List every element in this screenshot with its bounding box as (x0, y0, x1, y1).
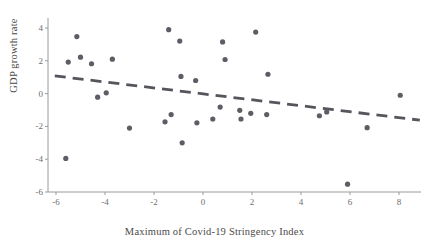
data-point (237, 108, 242, 113)
axis-lines (48, 18, 421, 192)
data-point (365, 125, 370, 130)
y-axis-title: GDP growth rate (8, 0, 19, 116)
data-point (178, 74, 183, 79)
y-tick-label: 0 (26, 89, 43, 99)
scatter-chart-figure: -6-4-202468 420-2-4-6 Maximum of Covid-1… (0, 0, 429, 242)
data-point (104, 90, 109, 95)
data-point (193, 78, 198, 83)
plot-area (0, 0, 429, 242)
data-point (248, 111, 253, 116)
data-point (180, 140, 185, 145)
data-point (210, 116, 215, 121)
x-tick-label: 8 (397, 197, 402, 207)
data-point (218, 104, 223, 109)
y-tick-label: -6 (26, 187, 43, 197)
data-point (74, 34, 79, 39)
y-tick-label: -4 (26, 154, 43, 164)
data-point (127, 125, 132, 130)
x-tick-label: 4 (299, 197, 304, 207)
data-points (63, 27, 403, 187)
data-point (169, 112, 174, 117)
data-point (317, 113, 322, 118)
data-point (253, 29, 258, 34)
data-point (95, 95, 100, 100)
x-tick-label: -2 (150, 197, 158, 207)
data-point (66, 60, 71, 65)
data-point (222, 57, 227, 62)
y-tick-label: 4 (26, 23, 43, 33)
y-tick-label: 2 (26, 56, 43, 66)
data-point (324, 109, 329, 114)
data-point (78, 55, 83, 60)
data-point (162, 119, 167, 124)
trend-line-path (55, 76, 420, 120)
x-axis-title: Maximum of Covid-19 Stringency Index (0, 226, 429, 237)
data-point (345, 182, 350, 187)
y-tick-label: -2 (26, 121, 43, 131)
x-tick-label: -6 (52, 197, 60, 207)
data-point (264, 112, 269, 117)
x-tick-label: -4 (101, 197, 109, 207)
x-tick-label: 6 (348, 197, 353, 207)
data-point (398, 93, 403, 98)
data-point (89, 61, 94, 66)
x-tick-label: 0 (201, 197, 206, 207)
data-point (110, 57, 115, 62)
trend-line (55, 76, 420, 120)
data-point (238, 116, 243, 121)
data-point (63, 156, 68, 161)
data-point (220, 39, 225, 44)
data-point (166, 27, 171, 32)
data-point (265, 72, 270, 77)
data-point (177, 39, 182, 44)
data-point (194, 120, 199, 125)
x-tick-label: 2 (250, 197, 255, 207)
